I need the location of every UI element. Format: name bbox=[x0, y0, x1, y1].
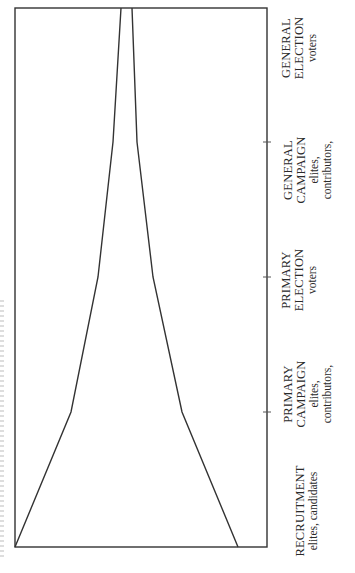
stage-participants: elites, bbox=[308, 349, 321, 439]
stage-participants: voters bbox=[306, 13, 319, 83]
stage-participants: elites, candidates bbox=[307, 451, 320, 571]
funnel-left-edge bbox=[15, 8, 121, 547]
stage-title: ELECTION bbox=[293, 245, 306, 315]
stage-title: ELECTION bbox=[293, 13, 306, 83]
diagram-frame bbox=[15, 8, 267, 547]
stage-label-general-campaign: GENERAL CAMPAIGN elites, contributors, bbox=[282, 125, 336, 215]
stage-participants: elites, bbox=[308, 125, 321, 215]
stage-participants: contributors, bbox=[321, 349, 334, 439]
stage-title: RECRUITMENT bbox=[294, 451, 307, 571]
stage-label-general-election: GENERAL ELECTION voters bbox=[280, 13, 320, 83]
stage-label-primary-election: PRIMARY ELECTION voters bbox=[280, 245, 320, 315]
funnel-right-edge bbox=[132, 8, 238, 547]
stage-title: CAMPAIGN bbox=[295, 125, 308, 215]
stage-participants: contributors, bbox=[321, 125, 334, 215]
stage-title: CAMPAIGN bbox=[295, 349, 308, 439]
stage-participants: voters bbox=[306, 245, 319, 315]
stage-label-primary-campaign: PRIMARY CAMPAIGN elites, contributors, bbox=[282, 349, 336, 439]
stage-label-recruitment: RECRUITMENT elites, candidates bbox=[294, 451, 322, 571]
